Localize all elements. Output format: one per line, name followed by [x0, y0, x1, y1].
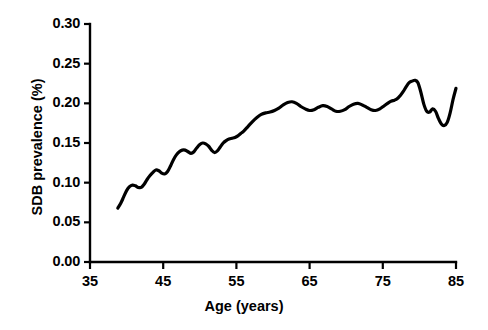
chart-figure: 0.000.050.100.150.200.250.30 35455565758… [0, 0, 488, 330]
y-tick-label: 0.10 [10, 174, 80, 190]
y-tick-label: 0.25 [10, 55, 80, 71]
y-tick-label: 0.20 [10, 94, 80, 110]
y-tick-label: 0.05 [10, 213, 80, 229]
x-axis-title: Age (years) [0, 298, 488, 314]
x-tick-label: 65 [285, 273, 335, 289]
y-tick-label: 0.15 [10, 134, 80, 150]
x-tick-label: 75 [358, 273, 408, 289]
y-tick-label: 0.00 [10, 253, 80, 269]
data-series-line [118, 80, 456, 208]
x-tick-label: 55 [211, 273, 261, 289]
axis-lines [90, 24, 456, 262]
y-tick-label: 0.30 [10, 15, 80, 31]
x-tick-label: 85 [431, 273, 481, 289]
x-tick-label: 35 [65, 273, 115, 289]
y-axis-title: SDB prevalence (%) [29, 47, 45, 247]
x-tick-label: 45 [138, 273, 188, 289]
